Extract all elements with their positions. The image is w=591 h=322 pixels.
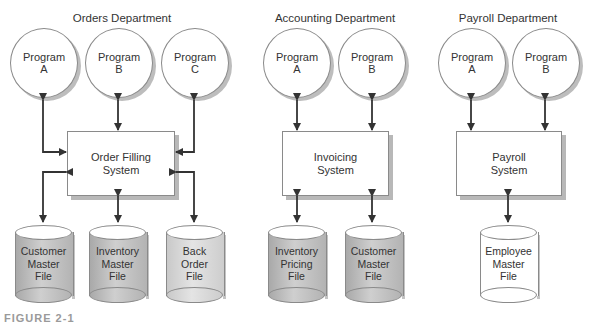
- file-label: Employee Master File: [480, 245, 537, 283]
- file-label: Inventory Master File: [89, 245, 146, 283]
- file-label: Back Order File: [166, 245, 223, 283]
- file-label: Customer Master File: [345, 245, 402, 283]
- file-label: Inventory Pricing File: [268, 245, 325, 283]
- cylinder-top: [345, 225, 402, 240]
- file-label-line2: Pricing: [268, 258, 325, 271]
- cylinder-top: [89, 225, 146, 240]
- cylinder-top: [480, 225, 537, 240]
- file-label-line3: File: [15, 270, 72, 283]
- file-label-line3: File: [480, 270, 537, 283]
- file-label-line2: Master: [15, 258, 72, 271]
- file-processing-diagram: Orders Department Program A Program B Pr…: [0, 0, 591, 322]
- file-label-line1: Employee: [480, 245, 537, 258]
- file-label-line3: File: [166, 270, 223, 283]
- file-label-line1: Inventory: [268, 245, 325, 258]
- file-label-line2: Master: [480, 258, 537, 271]
- file-label-line3: File: [345, 270, 402, 283]
- file-label-line2: Master: [89, 258, 146, 271]
- file-label-line1: Inventory: [89, 245, 146, 258]
- cylinder-top: [166, 225, 223, 240]
- file-label-line2: Order: [166, 258, 223, 271]
- cylinder-top: [268, 225, 325, 240]
- file-label-line2: Master: [345, 258, 402, 271]
- file-label-line1: Customer: [345, 245, 402, 258]
- file-label-line1: Customer: [15, 245, 72, 258]
- file-label: Customer Master File: [15, 245, 72, 283]
- file-label-line3: File: [89, 270, 146, 283]
- cylinder-top: [15, 225, 72, 240]
- file-label-line3: File: [268, 270, 325, 283]
- file-label-line1: Back: [166, 245, 223, 258]
